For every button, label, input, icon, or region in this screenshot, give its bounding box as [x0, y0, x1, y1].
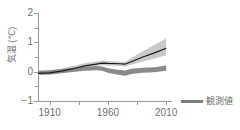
x-axis-tick [166, 101, 167, 105]
y-axis-tick [35, 28, 38, 29]
x-axis-tick [108, 101, 109, 105]
y-axis-tick [34, 42, 38, 43]
x-axis-line [38, 101, 172, 102]
y-axis-tick-label: 2 [27, 8, 33, 18]
x-axis-tick-label: 2010 [155, 108, 177, 118]
plot-area: 210−1191019602010 [38, 13, 172, 101]
legend-line-swatch [181, 100, 203, 103]
x-axis-tick-label: 1960 [97, 108, 119, 118]
y-axis-tick [35, 86, 38, 87]
y-axis-title: 気温 (℃) [5, 15, 19, 75]
y-axis-tick-label: 1 [27, 37, 33, 47]
y-axis-tick [34, 13, 38, 14]
x-axis-tick [137, 101, 138, 105]
chart-canvas [38, 13, 172, 101]
y-axis-tick-label: 0 [27, 67, 33, 77]
x-axis-tick [79, 101, 80, 105]
y-axis-tick [34, 72, 38, 73]
uncertainty-band [38, 66, 166, 76]
y-axis-tick [35, 57, 38, 58]
y-axis-tick [34, 101, 38, 102]
chart-figure: 気温 (℃) 210−1191019602010 観測値 [0, 0, 240, 130]
legend-label-observed: 観測値 [206, 96, 233, 106]
x-axis-tick-label: 1910 [39, 108, 61, 118]
y-axis-tick-label: −1 [22, 96, 33, 106]
chart-legend: 観測値 [181, 96, 233, 106]
x-axis-tick [50, 101, 51, 105]
